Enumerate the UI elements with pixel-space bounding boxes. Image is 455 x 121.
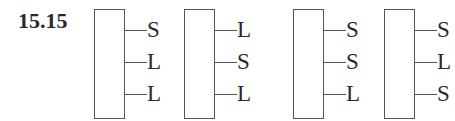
bond-line <box>125 94 147 95</box>
substituent-label: S <box>437 18 450 41</box>
substituent-label: L <box>346 82 360 105</box>
structure-box-4 <box>384 9 415 119</box>
problem-number: 15.15 <box>18 8 68 34</box>
bond-line <box>215 94 237 95</box>
substituent-label: L <box>147 82 161 105</box>
bond-line <box>125 30 147 31</box>
substituent-label: L <box>237 82 251 105</box>
bond-line <box>125 62 147 63</box>
bond-line <box>324 30 346 31</box>
substituent-label: L <box>147 50 161 73</box>
bond-line <box>415 62 437 63</box>
bond-line <box>324 94 346 95</box>
bond-line <box>415 30 437 31</box>
structure-box-2 <box>184 9 215 119</box>
substituent-label: S <box>147 18 160 41</box>
structure-box-1 <box>94 9 125 119</box>
substituent-label: S <box>437 82 450 105</box>
substituent-label: L <box>237 18 251 41</box>
substituent-label: S <box>346 18 359 41</box>
bond-line <box>415 94 437 95</box>
bond-line <box>324 62 346 63</box>
substituent-label: S <box>237 50 250 73</box>
bond-line <box>215 30 237 31</box>
substituent-label: L <box>437 50 451 73</box>
structure-box-3 <box>293 9 324 119</box>
bond-line <box>215 62 237 63</box>
substituent-label: S <box>346 50 359 73</box>
